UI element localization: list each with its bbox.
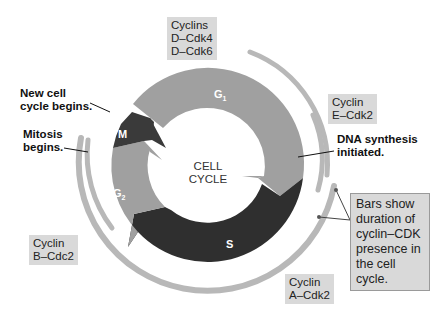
cyclin-e-label: Cyclin E–Cdk2 xyxy=(328,94,377,124)
center-label-line1: CELL xyxy=(178,160,238,173)
cyclin-d-label: Cyclins D–Cdk4 D–Cdk6 xyxy=(167,17,217,60)
dna-synthesis-label: DNA synthesis initiated. xyxy=(337,133,418,159)
cyclin-a-label: Cyclin A–Cdk2 xyxy=(285,274,334,304)
callout-pointer-1 xyxy=(336,190,350,220)
new-cycle-pointer xyxy=(90,103,110,112)
phase-label-g2: G2 xyxy=(113,187,125,201)
mitosis-label: Mitosis begins. xyxy=(23,128,63,154)
center-label-line2: CYCLE xyxy=(178,173,238,186)
phase-label-m: M xyxy=(118,128,127,140)
cyclin-b-label: Cyclin B–Cdc2 xyxy=(29,235,78,265)
callout-dot-1 xyxy=(334,188,338,192)
callout-dot-2 xyxy=(317,215,321,219)
bars-callout: Bars show duration of cyclin–CDK presenc… xyxy=(350,193,430,291)
phase-label-g1: G1 xyxy=(214,88,226,102)
phase-label-s: S xyxy=(226,238,233,250)
mitosis-pointer xyxy=(64,148,88,152)
new-cycle-label: New cell cycle begins. xyxy=(20,87,92,113)
center-label: CELL CYCLE xyxy=(178,160,238,186)
